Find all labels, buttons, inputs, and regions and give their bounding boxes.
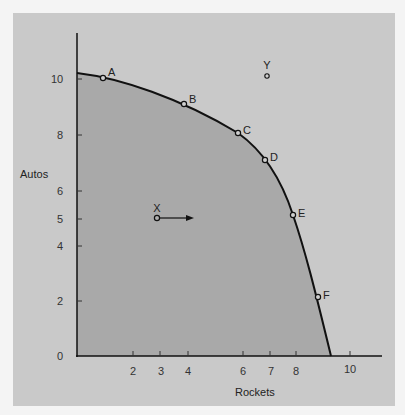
point-b-label: B: [189, 93, 196, 105]
point-c-marker: [235, 130, 240, 135]
y-tick-labels: 0 2 4 5 6 8 10: [51, 73, 63, 362]
point-e-label: E: [298, 207, 305, 219]
y-tick-label: 4: [57, 240, 63, 252]
x-tick-label: 2: [130, 365, 136, 377]
point-b-marker: [181, 101, 186, 106]
point-x-label: X: [153, 202, 161, 214]
x-tick-label: 10: [344, 363, 356, 375]
point-d-label: D: [270, 151, 278, 163]
x-tick-label: 8: [293, 365, 299, 377]
y-tick-label: 8: [57, 129, 63, 141]
point-d-marker: [262, 157, 267, 162]
x-tick-label: 3: [158, 365, 164, 377]
point-x-marker: [154, 215, 159, 220]
point-f-label: F: [323, 289, 330, 301]
y-tick-label: 5: [57, 213, 63, 225]
point-y-marker: [265, 74, 269, 78]
point-a-label: A: [108, 66, 116, 78]
y-axis-title: Autos: [20, 168, 49, 180]
ppf-chart: 2 3 4 6 7 8 10 0 2 4 5 6 8 10 Autos Rock…: [0, 0, 405, 415]
x-tick-label: 7: [268, 365, 274, 377]
point-y-label: Y: [263, 59, 271, 71]
y-tick-label: 0: [57, 350, 63, 362]
point-a-marker: [100, 75, 105, 80]
y-tick-label: 2: [57, 295, 63, 307]
point-c-label: C: [243, 124, 251, 136]
y-tick-label: 6: [57, 185, 63, 197]
x-tick-label: 6: [240, 365, 246, 377]
y-tick-label: 10: [51, 73, 63, 85]
x-axis-title: Rockets: [235, 386, 275, 398]
point-e-marker: [290, 212, 295, 217]
x-tick-label: 4: [185, 365, 191, 377]
x-tick-labels: 2 3 4 6 7 8 10: [130, 363, 356, 377]
point-f-marker: [315, 294, 320, 299]
